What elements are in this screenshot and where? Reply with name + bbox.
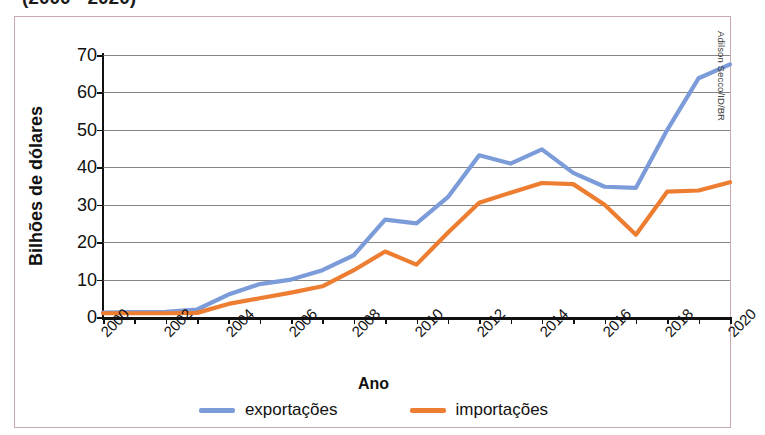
y-axis-tick-label: 70 (77, 46, 97, 64)
series-lines (103, 55, 730, 317)
x-axis-tick (699, 317, 701, 324)
x-axis-title: Ano (15, 375, 732, 393)
chart-legend: exportaçõesimportações (15, 400, 732, 420)
y-axis-tick-label: 20 (77, 233, 97, 251)
series-line-importações (103, 182, 730, 313)
legend-item[interactable]: exportações (199, 400, 338, 420)
x-axis-tick (573, 317, 575, 324)
x-axis-tick (511, 317, 513, 324)
y-axis-title-text: Bilhões de dólares (26, 106, 47, 266)
legend-item[interactable]: importações (410, 400, 549, 420)
y-axis-title: Bilhões de dólares (23, 55, 49, 317)
image-credit: Adilson Secco/ID/BR (714, 31, 728, 211)
y-axis-tick-label: 40 (77, 158, 97, 176)
y-axis-tick-label: 0 (87, 308, 97, 326)
y-axis-tick-label: 30 (77, 196, 97, 214)
y-axis-tick-labels: 010203040506070 (49, 55, 97, 317)
x-axis-tick (636, 317, 638, 324)
x-axis-tick (448, 317, 450, 324)
x-axis-tick (385, 317, 387, 324)
y-axis-tick-label: 50 (77, 121, 97, 139)
figure-frame: Bilhões de dólares 010203040506070 20002… (14, 16, 731, 428)
plot-area (103, 55, 730, 317)
y-axis-tick-label: 60 (77, 83, 97, 101)
x-axis-tick (322, 317, 324, 324)
series-line-exportações (103, 64, 730, 312)
legend-label: importações (456, 400, 549, 420)
x-axis-tick (260, 317, 262, 324)
x-axis-tick (197, 317, 199, 324)
legend-swatch (199, 408, 235, 413)
figure-title-text: (2000 - 2020) (22, 0, 442, 8)
x-axis-tick (134, 317, 136, 324)
legend-label: exportações (245, 400, 338, 420)
image-credit-text: Adilson Secco/ID/BR (716, 31, 727, 121)
figure-title-clipped: (2000 - 2020) (22, 0, 442, 8)
y-axis-tick-label: 10 (77, 271, 97, 289)
legend-swatch (410, 408, 446, 413)
chart-figure: (2000 - 2020) Bilhões de dólares 0102030… (0, 0, 765, 435)
